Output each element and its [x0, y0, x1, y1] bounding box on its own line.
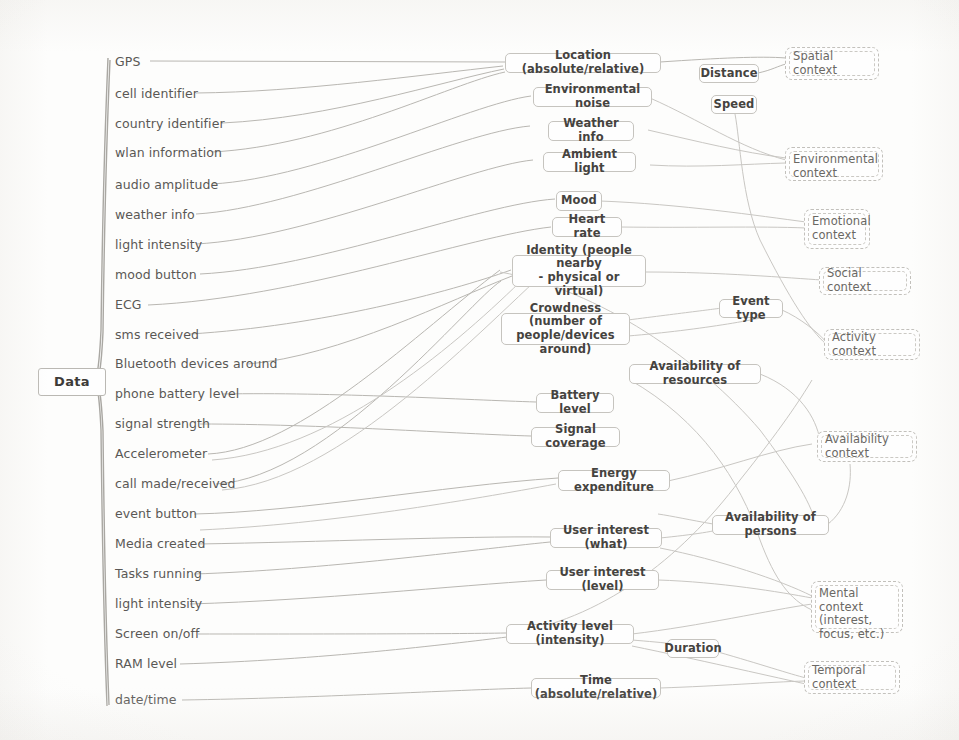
source-text: Media created	[115, 537, 205, 552]
feature-label: User interest (what)	[557, 524, 655, 551]
context-label: Social context	[827, 267, 903, 294]
feature-label: Ambient light	[550, 148, 629, 175]
source-label-phone-battery-level: phone battery level	[115, 386, 275, 402]
context-label-line1: Mental context	[819, 587, 895, 614]
feature-label: Speed	[714, 98, 755, 112]
feature-mood: Mood	[556, 191, 602, 211]
source-text: call made/received	[115, 477, 236, 492]
source-label-mood-button: mood button	[115, 267, 255, 283]
feature-label-line1: Identity (people nearby	[519, 244, 639, 271]
diagram-canvas: Data GPS cell identifier country identif…	[0, 0, 959, 740]
feature-label-line2: people/devices around)	[508, 329, 623, 356]
source-label-ram-level: RAM level	[115, 656, 255, 672]
source-label-date-time: date/time	[115, 692, 255, 708]
source-text: Accelerometer	[115, 447, 207, 462]
source-text: Screen on/off	[115, 627, 199, 642]
source-label-signal-strength: signal strength	[115, 416, 265, 432]
feature-availability-of-persons: Availability of persons	[712, 515, 829, 535]
source-text: Tasks running	[115, 567, 202, 582]
source-label-gps: GPS	[115, 54, 245, 70]
feature-event-type: Event type	[719, 299, 783, 318]
context-label-line2: context	[812, 229, 856, 243]
source-text: mood button	[115, 268, 197, 283]
feature-signal-coverage: Signal coverage	[531, 427, 620, 447]
feature-time: Time (absolute/relative)	[531, 678, 661, 698]
source-text: light intensity	[115, 238, 202, 253]
source-label-call-made-received: call made/received	[115, 476, 275, 492]
feature-label: Event type	[726, 295, 776, 322]
source-text: cell identifier	[115, 87, 198, 102]
feature-label: Distance	[700, 67, 757, 81]
feature-label: Heart rate	[559, 213, 615, 240]
source-text: wlan information	[115, 146, 222, 161]
feature-label: Time (absolute/relative)	[535, 674, 658, 701]
feature-heart-rate: Heart rate	[552, 217, 622, 237]
feature-user-interest-level: User interest (level)	[546, 570, 659, 590]
root-node-data: Data	[38, 368, 106, 396]
feature-label: User interest (level)	[553, 566, 652, 593]
source-text: weather info	[115, 208, 195, 223]
feature-label-line2: - physical or virtual)	[519, 271, 639, 298]
source-text: sms received	[115, 328, 199, 343]
context-label: Temporal context	[812, 664, 892, 691]
feature-label: Availability of persons	[719, 511, 822, 538]
source-text: RAM level	[115, 657, 177, 672]
context-label-line2: context	[793, 167, 837, 181]
source-label-media-created: Media created	[115, 536, 255, 552]
context-label: Spatial context	[793, 50, 871, 77]
feature-label: Location (absolute/relative)	[512, 49, 654, 76]
context-label-line2: (interest,	[819, 614, 872, 628]
feature-identity: Identity (people nearby - physical or vi…	[512, 255, 646, 287]
source-text: Bluetooth devices around	[115, 357, 278, 372]
feature-label: Signal coverage	[538, 423, 613, 450]
feature-label: Battery level	[543, 389, 607, 416]
feature-distance: Distance	[699, 64, 759, 83]
context-label: Activity context	[832, 331, 912, 358]
feature-label: Energy expenditure	[565, 467, 663, 494]
feature-label: Activity level (intensity)	[513, 620, 627, 647]
feature-battery-level: Battery level	[536, 393, 614, 413]
feature-environmental-noise: Environmental noise	[533, 87, 652, 107]
context-environmental: Environmental context	[785, 147, 883, 181]
source-label-light-intensity: light intensity	[115, 237, 255, 253]
source-text: ECG	[115, 298, 142, 313]
source-label-sms-received: sms received	[115, 327, 255, 343]
source-text: signal strength	[115, 417, 210, 432]
context-label-line1: Environmental	[793, 153, 878, 167]
feature-activity-level: Activity level (intensity)	[506, 624, 634, 644]
source-text: event button	[115, 507, 197, 522]
context-mental: Mental context (interest, focus, etc.)	[811, 581, 903, 633]
feature-label: Environmental noise	[540, 83, 645, 110]
feature-weather-info: Weather info	[548, 121, 634, 141]
feature-label: Duration	[664, 642, 722, 656]
source-label-weather-info: weather info	[115, 207, 255, 223]
feature-crowdness: Crowdness (number of people/devices arou…	[501, 313, 630, 345]
feature-energy-expenditure: Energy expenditure	[558, 470, 670, 491]
source-label-cell-identifier: cell identifier	[115, 86, 255, 102]
feature-speed: Speed	[711, 95, 757, 114]
context-spatial: Spatial context	[785, 47, 879, 80]
feature-user-interest-what: User interest (what)	[550, 528, 662, 548]
feature-duration: Duration	[667, 639, 719, 658]
source-label-audio-amplitude: audio amplitude	[115, 177, 265, 193]
source-label-screen-on-off: Screen on/off	[115, 626, 255, 642]
source-label-tasks-running: Tasks running	[115, 566, 255, 582]
feature-label: Weather info	[555, 117, 627, 144]
source-label-wlan-information: wlan information	[115, 145, 265, 161]
context-emotional: Emotional context	[804, 209, 870, 249]
source-label-accelerometer: Accelerometer	[115, 446, 265, 462]
feature-ambient-light: Ambient light	[543, 152, 636, 172]
feature-location: Location (absolute/relative)	[505, 53, 661, 73]
context-activity: Activity context	[824, 329, 920, 360]
context-availability: Availability context	[817, 431, 917, 462]
feature-label: Availability of resources	[636, 360, 754, 387]
root-label: Data	[54, 374, 90, 389]
context-social: Social context	[819, 267, 911, 295]
source-label-bluetooth-devices-around: Bluetooth devices around	[115, 356, 295, 372]
source-text: GPS	[115, 55, 140, 70]
feature-label: Mood	[561, 194, 597, 208]
context-label: Availability context	[825, 433, 909, 460]
context-temporal: Temporal context	[804, 661, 900, 694]
source-text: date/time	[115, 693, 177, 708]
source-text: light intensity	[115, 597, 202, 612]
